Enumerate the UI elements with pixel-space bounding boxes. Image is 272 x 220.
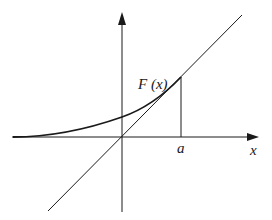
x-axis-arrow-icon [247,133,259,141]
diagram-canvas: F (x) a x [0,0,272,220]
line-y-equals-x [48,15,242,211]
point-a-label: a [177,141,185,156]
y-axis-arrow-icon [118,12,126,25]
diagram-svg [0,0,272,220]
x-axis-label: x [250,143,257,158]
curve-label: F (x) [138,77,168,92]
